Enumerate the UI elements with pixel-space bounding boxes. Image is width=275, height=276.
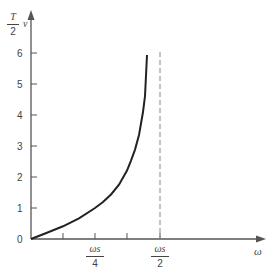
y-tick-label-1: 1 (17, 204, 23, 214)
y-tick-label-5: 5 (17, 80, 23, 90)
x-tick-label-half: ωs 2 (151, 244, 169, 269)
y-axis-label-numerator: T (7, 12, 19, 25)
x-tick-half-denominator: 2 (151, 257, 169, 269)
y-ticks (31, 53, 37, 208)
x-tick-half-numerator: ωs (151, 244, 169, 257)
y-tick-label-4: 4 (17, 111, 23, 121)
x-axis-label: ω (254, 246, 262, 257)
y-axis-label-variable: ν (23, 19, 27, 29)
x-tick-quarter-numerator: ωs (86, 244, 104, 257)
x-axis-arrow-icon (256, 236, 266, 243)
y-tick-label-6: 6 (17, 49, 23, 59)
x-ticks (63, 233, 160, 239)
x-tick-label-quarter: ωs 4 (86, 244, 104, 269)
y-axis-arrow-icon (28, 10, 35, 20)
origin-label: 0 (17, 235, 23, 245)
y-axis-label-fraction: T 2 (7, 12, 19, 37)
chart-canvas (0, 0, 275, 276)
y-axis-label-denominator: 2 (7, 25, 19, 37)
x-tick-quarter-denominator: 4 (86, 257, 104, 269)
curve-line (31, 55, 147, 239)
y-tick-label-3: 3 (17, 142, 23, 152)
y-tick-label-2: 2 (17, 173, 23, 183)
